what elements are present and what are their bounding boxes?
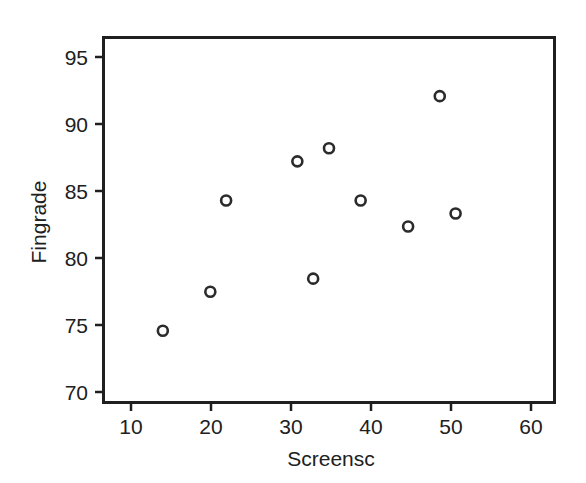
y-axis-ticks	[95, 57, 103, 392]
y-tick-label-75: 75	[65, 314, 88, 337]
y-tick-label-85: 85	[65, 180, 88, 203]
x-tick-label-60: 60	[519, 415, 542, 438]
y-axis-tick-labels: 95 90 85 80 75 70	[65, 46, 88, 404]
data-point	[403, 222, 413, 232]
data-point	[292, 156, 302, 166]
x-tick-label-50: 50	[439, 415, 462, 438]
x-tick-label-20: 20	[199, 415, 222, 438]
y-tick-label-95: 95	[65, 46, 88, 69]
data-point	[356, 195, 366, 205]
x-axis-title: Screensc	[287, 447, 375, 470]
data-point	[158, 326, 168, 336]
plot-frame	[104, 38, 555, 403]
y-axis-title: Fingrade	[27, 181, 50, 264]
chart-canvas: 95 90 85 80 75 70 10 20 30 40 50 60 Scre…	[0, 0, 586, 483]
data-point	[308, 274, 318, 284]
x-tick-label-30: 30	[279, 415, 302, 438]
data-point	[324, 143, 334, 153]
scatter-plot-figure: 95 90 85 80 75 70 10 20 30 40 50 60 Scre…	[0, 0, 586, 483]
x-axis-ticks	[131, 403, 531, 411]
data-point	[221, 195, 231, 205]
x-axis-tick-labels: 10 20 30 40 50 60	[119, 415, 542, 438]
data-point	[451, 208, 461, 218]
y-tick-label-80: 80	[65, 247, 88, 270]
x-tick-label-10: 10	[119, 415, 142, 438]
data-point	[435, 91, 445, 101]
y-tick-label-70: 70	[65, 381, 88, 404]
y-tick-label-90: 90	[65, 113, 88, 136]
x-tick-label-40: 40	[359, 415, 382, 438]
data-point	[205, 287, 215, 297]
